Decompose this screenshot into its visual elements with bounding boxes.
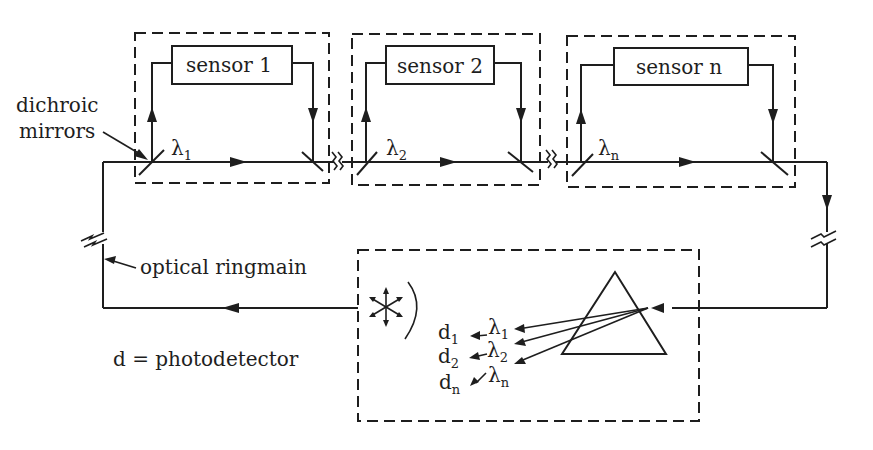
arrow-icon [134, 149, 148, 160]
detector-box [358, 250, 699, 421]
arrow-right-icon [440, 157, 457, 167]
dichroic-label-line2: mirrors [19, 119, 95, 143]
diagram-svg: sensor 1 λ1 sensor 2 λ2 sensor n λn [0, 0, 873, 450]
sensor-2-label: sensor 2 [397, 54, 483, 78]
detector-lambda-n: λn [488, 363, 510, 390]
arrow-right-icon [230, 157, 247, 167]
photodetector-d2: d2 [438, 344, 459, 371]
photodetector-dn: dn [439, 370, 461, 397]
dichroic-label-line1: dichroic [16, 93, 98, 117]
break-mark-2 [546, 150, 557, 168]
break-mark-1 [332, 152, 343, 170]
photodetector-d1: d1 [438, 320, 459, 347]
arrow-down-icon [822, 195, 832, 210]
lambda-n-label: λn [598, 136, 620, 163]
sensor-n-label: sensor n [636, 55, 722, 79]
dichroic-mirror-icon [572, 154, 593, 176]
ringmain-label: optical ringmain [140, 255, 307, 279]
arrow-icon [104, 256, 116, 264]
arrow-left-icon [222, 303, 239, 313]
light-source-icon [369, 287, 403, 327]
lambda-2-label: λ2 [386, 136, 407, 163]
photodetector-legend: d = photodetector [113, 347, 299, 371]
break-mark-right [811, 231, 836, 247]
sensor-1-label: sensor 1 [186, 53, 272, 77]
dichroic-mirror-icon [761, 152, 788, 175]
lambda-1-label: λ1 [171, 136, 192, 163]
optical-ringmain-diagram: sensor 1 λ1 sensor 2 λ2 sensor n λn [0, 0, 873, 450]
arrow-right-icon [679, 157, 696, 167]
detector-lambda-2: λ2 [487, 338, 508, 365]
lens-icon [405, 282, 417, 339]
